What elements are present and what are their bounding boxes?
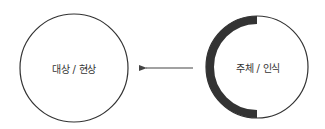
right-node-label: 주체 / 인식 <box>236 60 280 75</box>
left-node-label: 대상 / 현상 <box>52 61 96 76</box>
